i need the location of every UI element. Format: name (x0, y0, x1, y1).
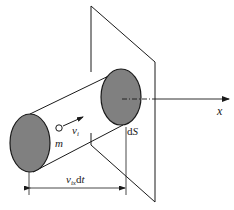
length-label: vixdt (66, 173, 85, 187)
x-axis-label: x (216, 104, 223, 118)
velocity-label: vi (72, 124, 79, 138)
flux-diagram: x vi m dS vixdt (0, 0, 234, 210)
particle-icon (56, 125, 62, 131)
mass-label: m (55, 137, 63, 149)
surface-element-ellipse (101, 69, 141, 125)
cylinder-base-ellipse (10, 114, 50, 172)
surface-label: dS (127, 125, 139, 137)
